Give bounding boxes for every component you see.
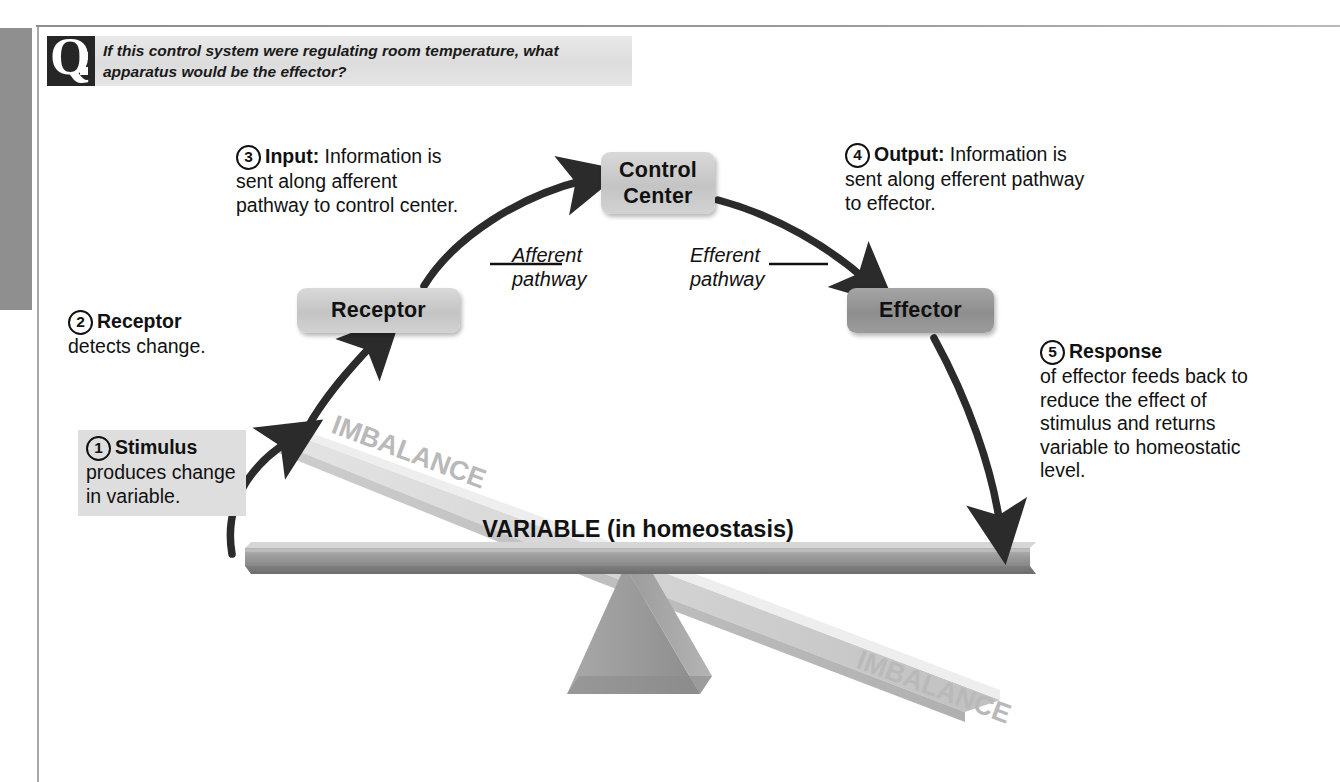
label-afferent-line1: Afferent (512, 244, 582, 266)
callout-stimulus: 1Stimulusproduces change in variable. (78, 430, 246, 516)
callout-title-1: Stimulus (115, 436, 197, 458)
callout-body-2: detects change. (68, 335, 206, 357)
callout-number-2: 2 (68, 310, 93, 335)
node-effector-label: Effector (879, 298, 962, 323)
node-control-center-label-line2: Center (623, 184, 692, 208)
homeostasis-level-beam (245, 542, 1036, 574)
callout-input: 3Input: Information is sent along affere… (236, 145, 471, 217)
variable-label: VARIABLE (in homeostasis) (482, 516, 794, 542)
callout-body-5: of effector feeds back to reduce the eff… (1040, 365, 1248, 481)
label-efferent-pathway: Efferent pathway (690, 243, 765, 291)
node-effector[interactable]: Effector (847, 288, 994, 333)
callout-receptor: 2Receptordetects change. (68, 310, 283, 359)
callout-number-5: 5 (1040, 340, 1065, 365)
label-afferent-line2: pathway (512, 268, 587, 290)
callout-title-3: Input: (265, 145, 319, 167)
callout-number-3: 3 (236, 145, 261, 170)
diagram-canvas: Q If this control system were regulating… (0, 0, 1340, 782)
callout-body-1: produces change in variable. (86, 461, 236, 507)
arrow-response (934, 338, 1000, 525)
callout-output: 4Output: Information is sent along effer… (845, 143, 1095, 215)
node-control-center[interactable]: Control Center (601, 152, 715, 214)
node-receptor[interactable]: Receptor (297, 288, 460, 333)
callout-title-5: Response (1069, 340, 1162, 362)
node-control-center-label-line1: Control (619, 158, 697, 182)
node-control-center-label: Control Center (619, 157, 697, 209)
node-receptor-label: Receptor (331, 298, 426, 323)
callout-title-4: Output: (874, 143, 944, 165)
callout-number-4: 4 (845, 143, 870, 168)
callout-response: 5Responseof effector feeds back to reduc… (1040, 340, 1255, 483)
label-afferent-pathway: Afferent pathway (512, 243, 587, 291)
callout-title-2: Receptor (97, 310, 182, 332)
label-efferent-line2: pathway (690, 268, 765, 290)
callout-number-1: 1 (86, 436, 111, 461)
label-efferent-line1: Efferent (690, 244, 760, 266)
